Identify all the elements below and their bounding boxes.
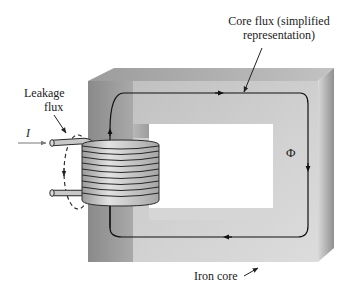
window-bottom-depth [133,208,273,220]
leakage-label-line1: Leakage [24,86,65,100]
leakage-flux-label: Leakage flux [24,86,65,114]
core-flux-label: Core flux (simplified representation) [214,14,344,42]
flux-symbol-label: Φ [286,146,296,160]
diagram-canvas [0,0,351,290]
leakage-callout-arrow [54,115,66,133]
current-label: I [26,126,30,140]
coil-post [133,124,149,138]
core-flux-label-line2: representation) [214,28,344,42]
core-top-face [88,68,334,81]
coil [82,140,159,206]
iron-core-callout-arrow [244,268,258,276]
core-flux-label-line1: Core flux (simplified [214,14,344,28]
core-side-face [318,68,334,262]
leakage-label-line2: flux [24,100,65,114]
magnetic-circuit-diagram: Core flux (simplified representation) Le… [0,0,351,290]
iron-core-label: Iron core [194,269,238,283]
